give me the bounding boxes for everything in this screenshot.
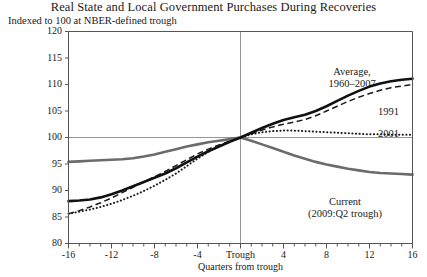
y-tick-label: 80 [30,237,62,248]
y-tick-label: 85 [30,211,62,222]
annotation-average: Average, 1960–2007 [300,66,404,90]
annotation-average-line1: Average, [300,66,404,78]
x-tick-label: 16 [385,249,427,260]
annotation-2001: 2001 [378,128,399,140]
annotation-average-line2: 1960–2007 [300,78,404,90]
plot-area [0,0,427,277]
y-tick-label: 115 [30,52,62,63]
annotation-current-line2: (2009:Q2 trough) [280,208,410,220]
annotation-current: Current (2009:Q2 trough) [280,196,410,220]
y-tick-label: 120 [30,25,62,36]
annotation-current-line1: Current [280,196,410,208]
chart-figure: Real State and Local Government Purchase… [0,0,427,277]
y-tick-label: 100 [30,131,62,142]
x-axis-title: Quarters from trough [69,261,413,272]
y-tick-label: 105 [30,105,62,116]
y-tick-label: 95 [30,158,62,169]
y-tick-label: 90 [30,184,62,195]
annotation-1991: 1991 [378,106,399,118]
y-tick-label: 110 [30,78,62,89]
